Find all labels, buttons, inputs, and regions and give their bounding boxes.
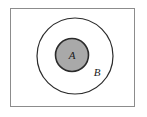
set-b-label: B [94, 66, 101, 78]
set-diagram-figure: A B [0, 0, 147, 117]
set-a-label: A [68, 49, 76, 61]
set-diagram-canvas: A B [0, 0, 147, 117]
